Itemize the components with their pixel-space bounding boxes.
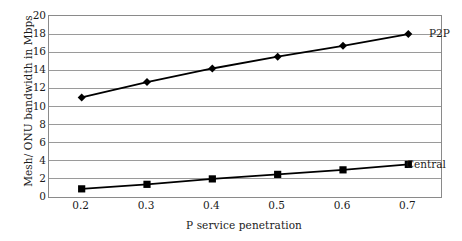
- y-tick-label: 4: [26, 155, 46, 166]
- x-axis-title: P service penetration: [48, 219, 440, 231]
- data-point-marker: [143, 78, 151, 86]
- data-point-marker: [78, 93, 86, 101]
- series-layer: [78, 30, 413, 192]
- y-tick-label: 2: [26, 173, 46, 184]
- y-tick-label: 14: [26, 64, 46, 75]
- y-tick-label: 6: [26, 136, 46, 147]
- data-point-marker: [339, 166, 346, 173]
- y-tick-label: 18: [26, 28, 46, 39]
- x-tick-label: 0.4: [203, 200, 220, 211]
- data-point-marker: [78, 185, 85, 192]
- y-tick-label: 8: [26, 118, 46, 129]
- gridlines: [49, 34, 441, 179]
- data-point-marker: [339, 42, 347, 50]
- data-point-marker: [209, 175, 216, 182]
- x-tick-label: 0.6: [334, 200, 351, 211]
- y-tick-label: 16: [26, 46, 46, 57]
- x-axis-tick-labels: 0.20.30.40.50.60.7: [48, 200, 440, 216]
- y-tick-label: 12: [26, 82, 46, 93]
- data-point-marker: [404, 30, 412, 38]
- data-point-marker: [208, 64, 216, 72]
- plot-svg: [49, 16, 441, 197]
- x-tick-label: 0.5: [268, 200, 285, 211]
- series-label-p2p: P2P: [429, 28, 450, 39]
- y-tick-label: 20: [26, 10, 46, 21]
- plot-area: P2P Central: [48, 15, 442, 198]
- y-tick-label: 10: [26, 100, 46, 111]
- x-tick-label: 0.3: [138, 200, 155, 211]
- x-tick-label: 0.7: [399, 200, 416, 211]
- series-central: [78, 161, 412, 193]
- y-axis-tick-labels: 02468101214161820: [26, 15, 46, 196]
- data-point-marker: [274, 171, 281, 178]
- data-point-marker: [143, 181, 150, 188]
- line-chart: Mesh/ ONU bandwidth in Mbps 024681012141…: [0, 0, 462, 241]
- x-tick-label: 0.2: [72, 200, 89, 211]
- series-p2p: [78, 30, 413, 101]
- y-tick-label: 0: [26, 191, 46, 202]
- series-label-central: Central: [406, 159, 446, 170]
- series-line: [82, 164, 409, 188]
- data-point-marker: [274, 53, 282, 61]
